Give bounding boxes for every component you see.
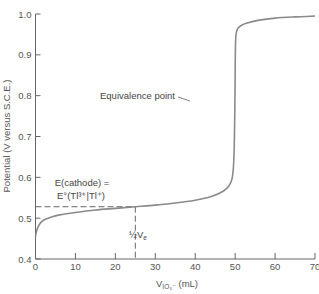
- y-tick-label: 1.0: [18, 9, 31, 20]
- x-axis-title-unit: (mL): [176, 278, 198, 289]
- x-tick-label: 60: [270, 261, 281, 272]
- x-tick-label: 70: [310, 261, 319, 272]
- e-cathode-label-line1: E(cathode) =: [55, 177, 110, 188]
- equivalence-point-label: Equivalence point: [100, 90, 175, 101]
- y-tick-label: 0.8: [18, 90, 31, 101]
- y-tick-label: 0.4: [18, 254, 31, 265]
- x-tick-label: 50: [230, 261, 241, 272]
- x-tick-label: 30: [150, 261, 161, 272]
- x-tick-label: 40: [190, 261, 201, 272]
- half-ve-subscript: e: [143, 234, 147, 241]
- titration-curve: [36, 16, 316, 237]
- equivalence-leader-line: [178, 97, 190, 101]
- titration-chart: 0.40.50.60.70.80.91.0010203040506070 Pot…: [0, 0, 319, 294]
- annotations: [36, 207, 136, 259]
- half-ve-main: ½V: [129, 229, 144, 240]
- axes: [36, 14, 316, 259]
- x-axis-title: VIO₃⁻ (mL): [156, 278, 198, 290]
- y-axis-title: Potential (V versus S.C.E.): [1, 80, 12, 193]
- x-axis-title-subscript: IO₃⁻: [162, 283, 176, 290]
- half-ve-label: ½Ve: [129, 229, 147, 241]
- x-tick-label: 10: [70, 261, 81, 272]
- x-tick-label: 20: [110, 261, 121, 272]
- y-tick-label: 0.6: [18, 172, 31, 183]
- y-tick-label: 0.7: [18, 131, 31, 142]
- x-tick-label: 0: [33, 261, 38, 272]
- e-cathode-label-line2: E°(Tl³⁺|Tl⁺): [57, 190, 105, 201]
- y-tick-label: 0.5: [18, 213, 31, 224]
- ticks: 0.40.50.60.70.80.91.0010203040506070: [18, 9, 319, 273]
- y-tick-label: 0.9: [18, 49, 31, 60]
